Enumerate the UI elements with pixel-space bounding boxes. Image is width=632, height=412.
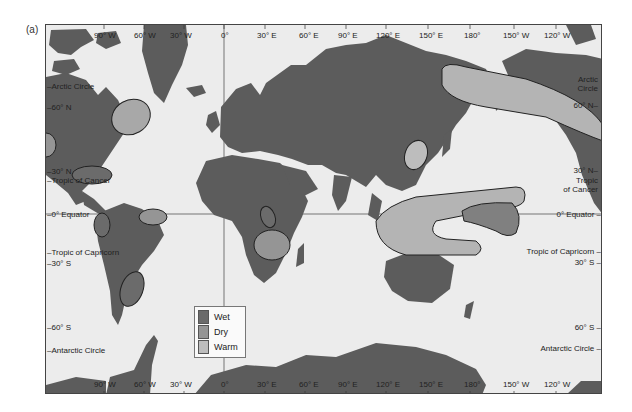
lat-label-right-equator: 0° Equator – [556,210,601,219]
lon-label-bottom: 60° W [134,380,156,389]
legend-label: Warm [214,342,238,352]
region-peru [94,213,110,237]
lat-label-left-capricorn: –Tropic of Capricorn [47,248,119,257]
lat-label-left-arctic: –Arctic Circle [47,82,94,91]
lon-label-top: 30° E [257,31,277,40]
lon-label-top: 120° E [376,31,400,40]
lon-label-top: 60° W [134,31,156,40]
legend-item-warm: Warm [198,339,242,354]
lon-label-top: 180° [464,31,481,40]
lat-label-right-antarctic: Antarctic Circle – [541,344,601,353]
lat-label-left-60s: –60° S [47,323,71,332]
lat-label-right-capricorn: Tropic of Capricorn – [527,247,601,256]
map-graphic [46,25,602,394]
lat-label-right-30s: 30° S – [575,258,601,267]
region-southern-africa [254,230,290,260]
legend-item-wet: Wet [198,309,242,324]
legend-swatch-dry [198,325,209,339]
legend-label: Dry [214,327,228,337]
lon-label-bottom: 30° W [170,380,192,389]
lon-label-bottom: 180° [464,380,481,389]
lon-label-bottom: 0° [221,380,229,389]
lat-label-left-cancer: –Tropic of Cancer [47,176,110,185]
lat-label-left-60n: –60° N [47,103,72,112]
lat-label-left-30n: –30° N [47,167,72,176]
lat-label-right-cancer: Tropicof Cancer [563,176,598,194]
region-ne-brazil [139,209,167,225]
region-central-pacific [462,203,519,236]
lon-label-top: 120° W [544,31,570,40]
lat-label-left-30s: –30° S [47,259,71,268]
world-map: 90° W 60° W 30° W 0° 30° E 60° E 90° E 1… [45,24,602,394]
lat-label-left-antarctic: –Antarctic Circle [47,346,105,355]
lat-label-right-60s: 60° S – [575,323,601,332]
lon-label-top: 90° W [94,31,116,40]
legend-swatch-warm [198,340,209,354]
lon-label-top: 60° E [299,31,319,40]
lon-label-top: 90° E [338,31,358,40]
lon-label-bottom: 30° E [257,380,277,389]
legend-label: Wet [214,312,230,322]
map-legend: Wet Dry Warm [194,306,246,358]
lon-label-top: 150° W [503,31,529,40]
lat-label-left-equator: –0° Equator [47,210,89,219]
legend-item-dry: Dry [198,324,242,339]
lon-label-bottom: 90° W [94,380,116,389]
lon-label-bottom: 150° E [419,380,443,389]
lon-label-top: 30° W [170,31,192,40]
panel-label: (a) [26,24,38,35]
lon-label-top: 150° E [419,31,443,40]
lat-label-right-arctic: ArcticCircle [578,75,598,93]
lon-label-bottom: 150° W [503,380,529,389]
legend-swatch-wet [198,310,209,324]
lat-label-right-30n: 30° N– [573,166,598,175]
lon-label-bottom: 120° E [376,380,400,389]
lon-label-bottom: 60° E [299,380,319,389]
lat-label-right-60n: 60° N– [573,101,598,110]
lon-label-top: 0° [221,31,229,40]
lon-label-bottom: 90° E [338,380,358,389]
lon-label-bottom: 120° W [544,380,570,389]
